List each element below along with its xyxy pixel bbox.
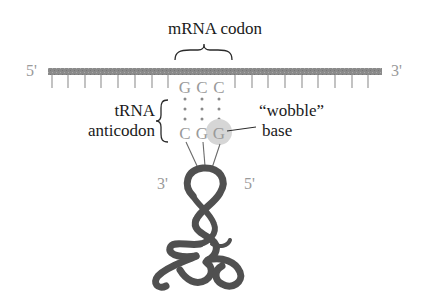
wobble-base-label: base [262,122,292,139]
anticodon-label: anticodon [40,122,155,139]
mrna-five-prime-label: 5' [26,63,37,79]
codon-brace [175,44,232,60]
codon-anticodon-diagram: mRNA codon 5' 3' G C C C G G tRNA antico… [0,0,428,305]
mrna-three-prime-label: 3' [391,63,402,79]
trna-ribbon [156,168,241,287]
anticodon-stem-lines [186,142,220,168]
anticodon-base-2: G [194,125,210,142]
mrna-strand [48,68,382,75]
diagram-graphics [0,0,428,305]
base-pair-dots [184,98,221,121]
wobble-label: “wobble” [259,102,324,119]
anticodon-base-1: C [177,125,193,142]
trna-five-prime-label: 5' [244,176,255,192]
trna-three-prime-label: 3' [157,176,168,192]
mrna-codon-title: mRNA codon [160,20,270,37]
codon-base-3: C [211,79,227,96]
trna-label: tRNA [60,102,155,119]
codon-base-2: C [194,79,210,96]
mrna-base-ticks [52,75,368,88]
codon-base-1: G [177,79,193,96]
anticodon-base-3-wobble: G [211,125,227,142]
anticodon-brace [156,100,168,142]
